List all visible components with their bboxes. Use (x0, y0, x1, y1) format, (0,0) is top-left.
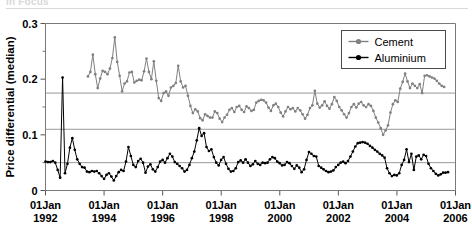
data-point (222, 156, 225, 159)
data-point (193, 150, 196, 153)
data-point (71, 137, 74, 140)
data-point (151, 168, 154, 171)
data-point (249, 165, 252, 168)
data-point (164, 161, 167, 164)
cut-off-header: In Focus (6, 0, 49, 7)
data-point (411, 82, 414, 85)
data-point (408, 161, 411, 164)
data-point (243, 111, 246, 114)
data-point (94, 73, 97, 76)
data-point (299, 109, 302, 112)
data-point (235, 106, 238, 109)
x-tick-label-day-1: 01Jan (88, 199, 119, 211)
data-point (210, 148, 213, 151)
data-point (199, 117, 202, 120)
data-point (256, 162, 259, 165)
data-point (282, 115, 285, 118)
data-point (191, 157, 194, 160)
data-point (404, 72, 407, 75)
data-point (188, 164, 191, 167)
data-point (172, 85, 175, 88)
data-point (325, 170, 328, 173)
data-point (305, 159, 308, 162)
data-point (152, 60, 155, 63)
data-point (373, 149, 376, 152)
x-tick-label-year-4: 2000 (268, 212, 292, 224)
data-point (443, 86, 446, 89)
data-point (231, 107, 234, 110)
data-point (413, 169, 416, 172)
data-point (123, 82, 126, 85)
data-point (434, 172, 437, 175)
data-point (304, 117, 307, 120)
data-point (89, 71, 92, 74)
x-tick-label-day-2: 01Jan (147, 199, 178, 211)
data-point (274, 102, 277, 105)
data-point (364, 141, 367, 144)
data-point (439, 173, 442, 176)
data-point (386, 167, 389, 170)
data-point (182, 86, 185, 89)
y-axis-title: Price differential (median) (4, 36, 16, 177)
data-point (320, 166, 323, 169)
data-point (113, 36, 116, 39)
data-point (447, 171, 450, 174)
data-point (401, 81, 404, 84)
data-point (422, 154, 425, 157)
data-point (238, 105, 241, 108)
data-point (414, 85, 417, 88)
data-point (108, 172, 111, 175)
data-point (137, 160, 140, 163)
x-tick-label-year-7: 2006 (443, 212, 467, 224)
data-point (253, 108, 256, 111)
data-point (281, 164, 284, 167)
data-point (257, 100, 260, 103)
data-point (327, 171, 330, 174)
data-point (381, 154, 384, 157)
y-tick-label-1: 0.1 (22, 129, 37, 141)
data-point (183, 170, 186, 173)
data-point (186, 169, 189, 172)
y-axis-ticks (41, 24, 46, 191)
x-tick-label-year-5: 2002 (326, 212, 350, 224)
data-point (265, 101, 268, 104)
data-point (269, 158, 272, 161)
data-point (370, 105, 373, 108)
data-point (101, 69, 104, 72)
x-tick-label-day-6: 01Jan (381, 199, 412, 211)
data-point (367, 103, 370, 106)
data-point (430, 167, 433, 170)
data-point (369, 145, 372, 148)
y-tick-label-2: 0.2 (22, 73, 37, 85)
data-point (88, 171, 91, 174)
data-point (322, 168, 325, 171)
data-point (177, 64, 180, 67)
data-point (301, 113, 304, 116)
data-point (353, 103, 356, 106)
data-point (298, 166, 301, 169)
data-point (95, 170, 98, 173)
data-point (371, 146, 374, 149)
data-point (244, 158, 247, 161)
data-point (125, 160, 128, 163)
data-point (134, 166, 137, 169)
data-point (416, 87, 419, 90)
data-point (418, 83, 421, 86)
data-point (423, 74, 426, 77)
data-point (417, 154, 420, 157)
data-point (211, 116, 214, 119)
data-point (149, 163, 152, 166)
data-point (242, 161, 245, 164)
data-point (86, 170, 89, 173)
data-point (54, 161, 57, 164)
data-point (120, 169, 123, 172)
data-point (196, 110, 199, 113)
figure-container: In Focus 00.10.20.3 01Jan199201Jan199401… (0, 0, 472, 239)
data-point (392, 103, 395, 106)
data-point (400, 164, 403, 167)
data-point (254, 160, 257, 163)
data-point (195, 139, 198, 142)
data-point (237, 161, 240, 164)
data-point (215, 161, 218, 164)
data-point (313, 90, 316, 93)
